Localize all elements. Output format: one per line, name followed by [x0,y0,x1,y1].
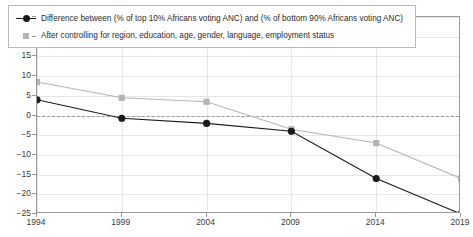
data-point [119,95,125,101]
data-point [204,99,210,105]
x-tick-mark [206,213,207,217]
y-tick-label: 15 [0,51,31,59]
y-tick-label: −25 [0,209,31,217]
x-tick-label: 2019 [451,218,470,227]
y-tick-mark [32,174,36,175]
y-tick-label: 10 [0,71,31,79]
series-line-difference [37,100,460,213]
y-tick-mark [32,36,36,37]
legend-label-controlled: After controlling for region, education,… [41,31,334,41]
y-tick-mark [32,55,36,56]
data-point [373,140,379,146]
x-tick-label: 2009 [281,218,300,227]
series-line-controlled [37,82,460,179]
x-tick-mark [290,213,291,217]
chart-figure: 2520151050−5−10−15−20−25 Difference betw… [0,0,473,237]
x-tick-mark [36,213,37,217]
y-tick-mark [32,75,36,76]
chart-legend: Difference between (% of top 10% African… [8,5,416,48]
x-tick-label: 1999 [111,218,130,227]
x-tick-label: 1994 [27,218,46,227]
legend-item-difference: Difference between (% of top 10% African… [15,10,409,27]
y-tick-label: −10 [0,150,31,158]
y-tick-mark [32,193,36,194]
y-tick-label: −20 [0,189,31,197]
y-tick-mark [32,115,36,116]
x-tick-mark [460,213,461,217]
y-tick-label: 5 [0,91,31,99]
y-tick-label: 0 [0,111,31,119]
y-tick-mark [32,134,36,135]
x-tick-label: 2004 [196,218,215,227]
y-tick-mark [32,95,36,96]
data-point [458,175,460,181]
data-point [203,120,210,127]
x-tick-mark [121,213,122,217]
legend-item-controlled: After controlling for region, education,… [15,27,409,44]
legend-label-difference: Difference between (% of top 10% African… [41,14,403,24]
x-tick-label: 2014 [366,218,385,227]
y-tick-mark [32,154,36,155]
x-tick-mark [375,213,376,217]
y-tick-label: −5 [0,130,31,138]
y-tick-label: −15 [0,170,31,178]
data-point [118,115,125,122]
data-point [36,96,41,103]
data-point [36,79,40,85]
legend-marker-circle-icon [15,13,37,25]
data-point [288,128,295,135]
y-tick-mark [32,16,36,17]
data-point [373,175,380,182]
